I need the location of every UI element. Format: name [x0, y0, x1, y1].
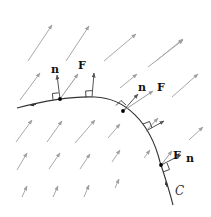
vector-field [16, 25, 203, 197]
label-n-point3: n [186, 153, 194, 164]
label-f-point3: F [173, 150, 181, 161]
label-curve-c: C [175, 185, 184, 197]
point-1 [52, 74, 78, 101]
normal-top [86, 73, 94, 98]
point-2 [116, 91, 153, 113]
normal-vector-n [57, 75, 60, 99]
label-n-point1: n [51, 64, 59, 75]
point-dot [121, 109, 125, 113]
point-dot [159, 163, 163, 167]
label-f-point2: F [157, 82, 165, 93]
right-angle-marker [52, 93, 58, 100]
right-angle-marker [163, 163, 170, 172]
field-vector-F [60, 74, 78, 99]
flux-diagram: n F n F F n C [0, 0, 211, 217]
label-n-point2: n [138, 82, 146, 93]
field-vector-F [161, 151, 172, 165]
point-dot [58, 97, 62, 101]
label-f-point1: F [78, 60, 86, 71]
right-angle-marker [143, 122, 152, 129]
